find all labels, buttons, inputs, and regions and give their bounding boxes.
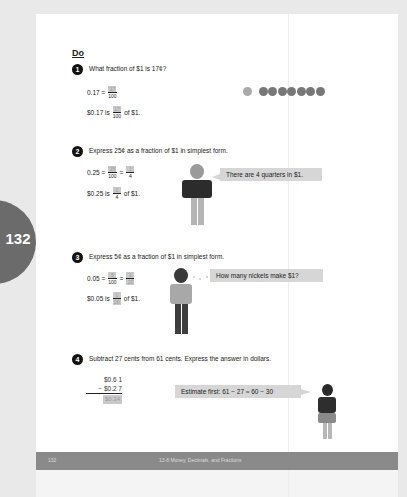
thought-dot [193,276,195,278]
character-head [190,164,204,179]
penny-coin-icon [278,87,287,96]
character-legs [175,304,188,334]
equation-lhs: 0.17 = [87,89,105,96]
thought-bubble: How many nickels make $1? [210,269,323,282]
equals-sign: = [120,169,124,176]
girl-character-illustration [182,164,212,225]
character-head [322,384,333,396]
fraction: 1 4 [113,187,121,200]
question-prompt: Express 25¢ as a fraction of $1 in simpl… [89,147,228,154]
minuend: $0.6 1 [86,375,122,384]
denominator: 100 [108,173,116,179]
character-head [174,268,188,283]
fraction: 1 20 [126,272,134,285]
penny-coin-icon [287,87,296,96]
question-prompt: Subtract 27 cents from 61 cents. Express… [89,355,271,362]
fraction: 1 4 [126,166,134,179]
penny-coin-icon [297,87,306,96]
denominator: 100 [108,279,116,285]
character-torso [182,180,212,198]
question-number-badge: 2 [72,146,83,157]
penny-coin-icon [268,87,277,96]
denominator: 100 [113,113,121,119]
character-torso [318,397,336,413]
character-legs [191,198,204,225]
denominator: 4 [113,194,121,200]
coin-group [243,87,325,96]
equation-lhs: 0.05 = [87,275,105,282]
question-number-badge: 3 [72,252,83,263]
denominator-answer-box[interactable]: 20 [113,299,121,305]
character-legs [323,423,332,439]
equation-lhs: 0.25 = [87,169,105,176]
speech-bubble: Estimate first: 61 − 27 ≈ 60 − 30 [175,385,301,398]
equation-line: 0.25 = 25 100 = 1 4 [87,166,135,179]
speech-bubble: There are 4 quarters in $1. [220,168,322,181]
character-torso [170,284,192,304]
question-number-badge: 4 [72,354,83,365]
penny-coin-icon [316,87,325,96]
page-number-tab-label: 132 [0,230,36,247]
footer-chapter-title: 13-8 Money, Decimals, and Fractions [159,457,241,463]
denominator: 100 [108,93,116,99]
page-footer: 132 13-8 Money, Decimals, and Fractions [36,452,398,470]
speech-bubble-tail [301,389,311,395]
penny-coin-icon [306,87,315,96]
equation-lhs: $0.05 is [87,295,110,302]
fraction: 5 100 [108,272,116,285]
section-heading: Do [72,48,84,58]
girl-character-illustration [318,384,336,439]
dime-coin-icon [243,87,252,96]
equation-lhs: $0.25 is [87,190,110,197]
equation-rhs: of $1. [124,109,140,116]
character-shorts [318,413,336,423]
boy-character-illustration [170,268,192,334]
equation-rhs: of $1. [124,295,140,302]
question-number-badge: 1 [72,64,83,75]
denominator-answer-box[interactable]: 20 [126,279,134,285]
fraction: 1 20 [113,292,121,305]
thought-dot [206,276,208,278]
equation-line: 0.05 = 5 100 = 1 20 [87,272,135,285]
equation-lhs: $0.17 is [87,109,110,116]
equation-line: $0.25 is 1 4 of $1. [87,187,140,200]
question-prompt: What fraction of $1 is 17¢? [89,65,166,72]
thought-dot [199,278,201,280]
difference-answer-box[interactable]: $0.34 [103,395,122,404]
fraction: 17 100 [113,106,121,119]
fraction: 25 100 [108,166,116,179]
fraction: 17 100 [108,86,116,99]
subtrahend: − $0.2 7 [86,384,122,394]
equation-line: 0.17 = 17 100 [87,86,118,99]
footer-page-number: 132 [48,457,56,463]
penny-coin-icon [259,87,268,96]
equals-sign: = [120,275,124,282]
question-prompt: Express 5¢ as a fraction of $1 in simple… [89,253,224,260]
equation-rhs: of $1. [124,190,140,197]
equation-line: $0.05 is 1 20 of $1. [87,292,140,305]
vertical-subtraction: $0.6 1 − $0.2 7 $0.34 [86,375,122,404]
equation-line: $0.17 is 17 100 of $1. [87,106,140,119]
speech-bubble-tail [212,174,220,180]
denominator: 4 [126,173,134,179]
